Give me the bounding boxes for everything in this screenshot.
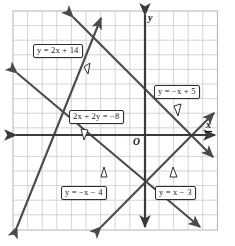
equation-label-neg-x-plus-5: y = −x + 5 bbox=[154, 85, 200, 99]
equation-label-2x-plus-14: y = 2x + 14 bbox=[33, 44, 83, 58]
x-axis-label: x bbox=[206, 119, 211, 130]
equation-label-x-minus-3: y = x − 3 bbox=[155, 186, 196, 200]
equation-label-neg-x-minus-4: y = −x − 4 bbox=[61, 186, 107, 200]
y-axis-label: y bbox=[148, 12, 152, 23]
equation-label-2x-2y-neg-8: 2x + 2y = −8 bbox=[69, 110, 124, 124]
origin-label: O bbox=[133, 137, 140, 147]
coordinate-graph-figure: y = 2x + 14 y = −x + 5 2x + 2y = −8 y = … bbox=[0, 0, 235, 246]
